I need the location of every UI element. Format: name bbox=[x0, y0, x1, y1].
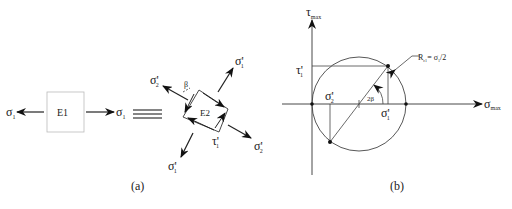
sigma2-top-left-label: σ'2 bbox=[150, 73, 159, 88]
angle-arc bbox=[374, 85, 383, 104]
caption-b: (b) bbox=[390, 179, 404, 193]
sigma1-right-label: σ1 bbox=[116, 105, 125, 120]
element-e1-label: E1 bbox=[57, 107, 68, 118]
sigma2-point-label: σ'2 bbox=[325, 89, 334, 104]
point-sigma-max bbox=[404, 102, 408, 106]
panel-b: τmax σmax 2β τ'1 σ'2 σ'1 Rc1= σ1/2 (b) bbox=[282, 5, 501, 193]
sigma1-bottom-left-label: σ'1 bbox=[168, 159, 177, 174]
mohr-circle-figure: E1 σ1 σ1 E2 β σ'2 bbox=[0, 0, 512, 209]
angle-label: 2β bbox=[367, 95, 375, 103]
radius-label: Rc1= σ1/2 bbox=[418, 53, 446, 63]
point-tau bbox=[386, 64, 390, 68]
point-lower bbox=[328, 140, 332, 144]
point-origin bbox=[310, 102, 314, 106]
panel-a: E1 σ1 σ1 E2 β σ'2 bbox=[6, 54, 263, 193]
sigma-axis-label: σmax bbox=[484, 97, 501, 111]
sigma1-point-label: σ'1 bbox=[381, 106, 390, 121]
arrow-sigma2-bottom-right bbox=[228, 125, 251, 138]
caption-a: (a) bbox=[131, 179, 144, 193]
element-e2: E2 β σ'2 σ'1 σ'2 σ'1 τ'1 bbox=[150, 54, 263, 174]
tau-axis-label: τmax bbox=[306, 5, 321, 20]
element-e2-label: E2 bbox=[200, 108, 210, 118]
equivalence-symbol bbox=[133, 110, 162, 118]
beta-label: β bbox=[184, 80, 188, 89]
tau1-point-label: τ'1 bbox=[296, 63, 303, 78]
sigma1-left-label: σ1 bbox=[6, 105, 15, 120]
sigma1-top-right-label: σ'1 bbox=[235, 54, 244, 69]
arrow-sigma1-top-right bbox=[218, 68, 233, 92]
arrow-sigma1-bottom-left bbox=[181, 133, 193, 157]
tau1-label: τ'1 bbox=[212, 134, 219, 149]
sigma2-bottom-right-label: σ'2 bbox=[254, 139, 263, 154]
